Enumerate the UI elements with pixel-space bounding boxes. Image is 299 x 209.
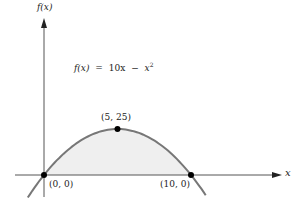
point-origin (41, 172, 47, 178)
label-vertex: (5, 25) (101, 112, 131, 122)
equation-eq: = (95, 63, 103, 73)
x-axis-label: x (285, 167, 291, 178)
equation-lhs: f(x) (74, 63, 89, 73)
label-root: (10, 0) (160, 179, 190, 189)
point-root (188, 172, 194, 178)
equation-exponent: 2 (150, 61, 154, 68)
graph-canvas (0, 0, 299, 209)
point-vertex (115, 126, 121, 132)
x-axis-arrow-icon (272, 172, 282, 178)
y-axis-arrow-icon (41, 18, 47, 28)
y-axis-label: f(x) (37, 2, 52, 12)
equation-term-a: 10x (109, 63, 126, 73)
equation-label: f(x) = 10x − x2 (74, 61, 153, 73)
equation-minus: − (131, 63, 139, 73)
label-origin: (0, 0) (49, 179, 73, 189)
